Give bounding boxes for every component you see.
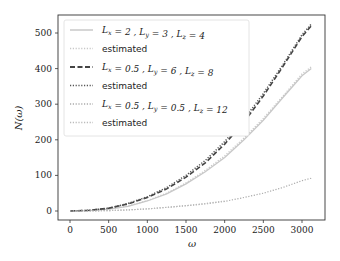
legend-label: estimated	[102, 44, 147, 54]
x-tick-label: 2000	[213, 225, 236, 235]
y-axis-label: N(ω)	[13, 106, 24, 132]
y-axis-ticks: 0100200300400500	[35, 28, 58, 216]
y-tick-label: 500	[35, 28, 52, 38]
x-tick-label: 1500	[175, 225, 198, 235]
x-axis-ticks: 050010001500200025003000	[67, 220, 314, 235]
y-tick-label: 200	[35, 135, 52, 145]
y-tick-label: 100	[35, 170, 52, 180]
x-tick-label: 500	[100, 225, 117, 235]
line-chart: 0100200300400500 05001000150020002500300…	[0, 0, 340, 261]
legend: Lx = 2 , Ly = 3 , Lz = 4estimatedLx = 0.…	[64, 20, 249, 136]
y-tick-label: 400	[35, 64, 52, 74]
x-axis-label: ω	[188, 238, 196, 249]
x-tick-label: 3000	[291, 225, 314, 235]
legend-label: estimated	[102, 81, 147, 91]
x-tick-label: 0	[67, 225, 73, 235]
y-tick-label: 0	[46, 206, 52, 216]
legend-label: estimated	[102, 118, 147, 128]
x-tick-label: 2500	[252, 225, 275, 235]
y-tick-label: 300	[35, 99, 52, 109]
x-tick-label: 1000	[136, 225, 159, 235]
